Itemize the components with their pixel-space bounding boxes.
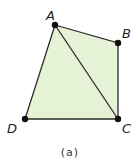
vertex-b-dot: [115, 40, 121, 46]
quadrilateral-diagram: [0, 0, 140, 164]
vertex-label-c: C: [122, 122, 131, 135]
vertex-label-b: B: [122, 27, 131, 40]
vertex-d-dot: [22, 116, 28, 122]
quadrilateral-abcd-fill: [25, 25, 118, 119]
vertex-label-a: A: [46, 9, 55, 22]
vertex-label-d: D: [7, 122, 17, 135]
quadrilateral-figure: A B C D (a): [0, 0, 140, 164]
vertex-c-dot: [115, 116, 121, 122]
figure-caption: (a): [0, 147, 140, 158]
